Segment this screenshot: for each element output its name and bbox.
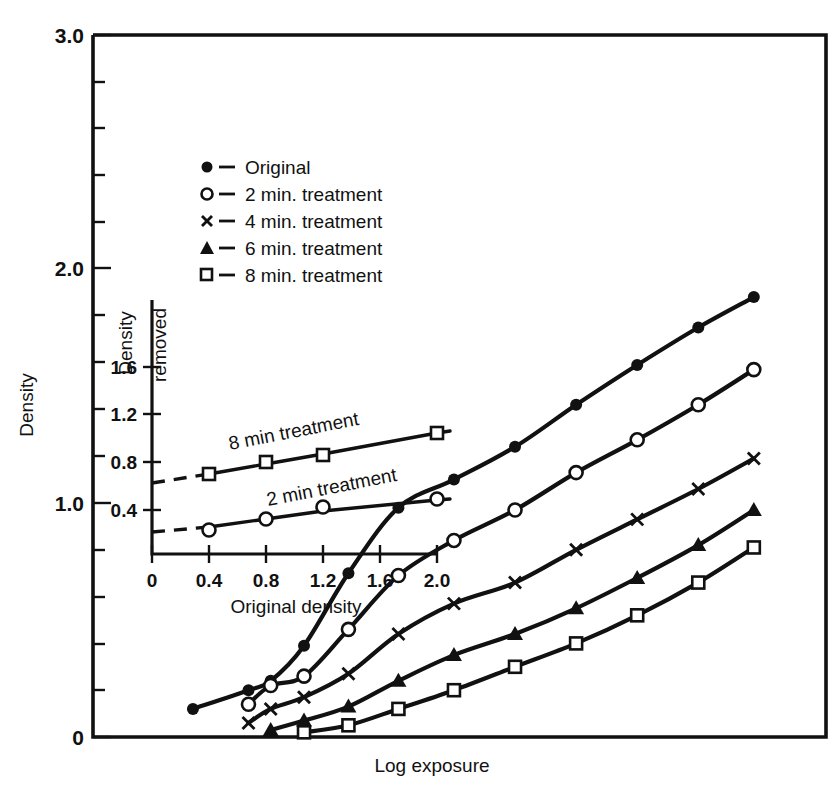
legend: Original 2 min. treatment 4 min. treatme… bbox=[200, 157, 383, 286]
inset-2min-dashed bbox=[152, 527, 209, 532]
legend-label-4min: 4 min. treatment bbox=[245, 211, 383, 232]
inset-marker-square bbox=[203, 468, 215, 480]
inset-x-axis-title: Original density bbox=[231, 596, 362, 617]
inset-x-tick-label-20: 2.0 bbox=[424, 570, 450, 591]
marker-open-circle bbox=[392, 569, 405, 582]
curves-layer bbox=[193, 297, 754, 732]
inset-marker-circle bbox=[317, 501, 330, 514]
y-tick-label-1: 1.0 bbox=[55, 492, 84, 515]
marker-open-square bbox=[298, 726, 310, 738]
marker-filled-circle bbox=[631, 359, 643, 371]
inset-y-tick-label-12: 1.2 bbox=[111, 404, 137, 425]
inset-marker-square bbox=[260, 456, 272, 468]
main-x-axis-title: Log exposure bbox=[374, 755, 489, 776]
y-tick-label-0: 0 bbox=[72, 726, 84, 749]
legend-label-6min: 6 min. treatment bbox=[245, 238, 383, 259]
marker-filled-circle bbox=[242, 684, 254, 696]
marker-open-square bbox=[509, 661, 521, 673]
inset-marker-square bbox=[317, 449, 329, 461]
series-line-3 bbox=[271, 510, 754, 730]
marker-open-square bbox=[631, 609, 643, 621]
inset-marker-circle bbox=[431, 493, 444, 506]
main-y-axis-ticks bbox=[93, 35, 111, 737]
inset-y-axis-title-bottom: removed bbox=[149, 308, 170, 382]
marker-filled-triangle bbox=[746, 502, 762, 516]
marker-open-square bbox=[448, 684, 460, 696]
marker-filled-circle bbox=[509, 441, 521, 453]
inset-y-tick-label-08: 0.8 bbox=[111, 452, 137, 473]
markers-layer bbox=[187, 291, 762, 738]
inset-label-2min: 2 min treatment bbox=[265, 464, 399, 510]
marker-open-circle bbox=[447, 534, 460, 547]
legend-label-2min: 2 min. treatment bbox=[245, 184, 383, 205]
legend-item-6min[interactable]: 6 min. treatment bbox=[200, 238, 383, 259]
legend-label-8min: 8 min. treatment bbox=[245, 265, 383, 286]
legend-item-2min[interactable]: 2 min. treatment bbox=[202, 184, 383, 205]
inset-label-8min: 8 min treatment bbox=[227, 408, 361, 454]
marker-open-circle bbox=[242, 698, 255, 711]
open-square-icon bbox=[201, 269, 212, 280]
y-tick-label-3: 3.0 bbox=[55, 24, 84, 47]
figure-root: 3.0 2.0 1.0 0 Density Log exposure bbox=[0, 0, 839, 789]
inset-marker-square bbox=[431, 427, 443, 439]
marker-open-circle bbox=[631, 433, 644, 446]
marker-open-circle bbox=[692, 398, 705, 411]
marker-cross bbox=[342, 668, 354, 680]
legend-item-8min[interactable]: 8 min. treatment bbox=[201, 265, 383, 286]
open-circle-icon bbox=[202, 189, 213, 200]
cross-icon bbox=[202, 216, 212, 226]
inset-x-tick-label-12: 1.2 bbox=[310, 570, 336, 591]
legend-item-4min[interactable]: 4 min. treatment bbox=[202, 211, 383, 232]
legend-label-original: Original bbox=[245, 157, 310, 178]
inset-x-tick-label-08: 0.8 bbox=[253, 570, 279, 591]
marker-filled-circle bbox=[448, 474, 460, 486]
marker-filled-circle bbox=[748, 291, 760, 303]
marker-filled-circle bbox=[187, 703, 199, 715]
marker-open-circle bbox=[298, 670, 311, 683]
marker-open-circle bbox=[747, 363, 760, 376]
filled-circle-icon bbox=[202, 162, 213, 173]
marker-open-circle bbox=[570, 466, 583, 479]
inset-marker-circle bbox=[203, 524, 216, 537]
inset-x-tick-label-16: 1.6 bbox=[367, 570, 393, 591]
marker-open-square bbox=[342, 719, 354, 731]
filled-triangle-icon bbox=[200, 241, 214, 254]
y-tick-label-2: 2.0 bbox=[55, 257, 84, 280]
marker-open-square bbox=[392, 703, 404, 715]
marker-open-circle bbox=[264, 679, 277, 692]
marker-open-circle bbox=[342, 623, 355, 636]
chart-svg: 3.0 2.0 1.0 0 Density Log exposure bbox=[0, 0, 839, 789]
marker-filled-circle bbox=[570, 399, 582, 411]
inset-x-tick-label-0: 0 bbox=[147, 570, 158, 591]
marker-open-square bbox=[570, 637, 582, 649]
main-plot-frame bbox=[93, 35, 826, 737]
marker-filled-circle bbox=[298, 640, 310, 652]
inset-x-tick-label-04: 0.4 bbox=[196, 570, 223, 591]
inset-8min-dashed bbox=[152, 474, 209, 483]
marker-filled-circle bbox=[342, 567, 354, 579]
marker-cross bbox=[392, 628, 404, 640]
marker-filled-circle bbox=[692, 322, 704, 334]
legend-item-original[interactable]: Original bbox=[202, 157, 311, 178]
marker-cross bbox=[242, 717, 254, 729]
inset-y-axis-title-top: Density bbox=[115, 311, 136, 375]
marker-open-square bbox=[692, 577, 704, 589]
main-y-axis-title: Density bbox=[16, 373, 37, 437]
inset-marker-circle bbox=[260, 513, 273, 526]
inset-y-tick-label-04: 0.4 bbox=[111, 500, 138, 521]
marker-open-square bbox=[748, 541, 760, 553]
marker-open-circle bbox=[509, 504, 522, 517]
